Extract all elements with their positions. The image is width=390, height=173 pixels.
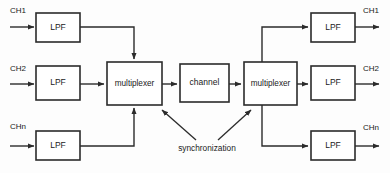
lpf-label-input-ch1: LPF xyxy=(50,22,66,32)
output-label-chn: CHn xyxy=(363,123,379,132)
input-label-ch2: CH2 xyxy=(10,64,27,73)
block-diagram-canvas: CH1 LPF CH2 LPF CHn LPF multiplexer xyxy=(0,0,390,173)
lpf-label-input-chn: LPF xyxy=(50,140,66,150)
sync-arrow-to-receive-mux xyxy=(218,110,251,140)
lpf-label-input-ch2: LPF xyxy=(50,77,66,87)
multiplexer-label-transmit: multiplexer xyxy=(115,79,155,88)
channel-label: channel xyxy=(190,77,220,87)
wire-lpf-ch1-to-mux xyxy=(80,27,134,59)
lpf-label-output-ch1: LPF xyxy=(325,22,341,32)
wire-mux-to-lpf-ch1 xyxy=(262,27,308,62)
wire-lpf-chn-to-mux xyxy=(80,108,134,146)
synchronization-annotation-group: synchronization xyxy=(162,110,251,153)
output-channel-ch1-group: LPF CH1 xyxy=(262,6,380,62)
input-channel-ch1-group: CH1 LPF xyxy=(10,6,134,59)
output-label-ch2: CH2 xyxy=(363,64,380,73)
diagram-svg: CH1 LPF CH2 LPF CHn LPF multiplexer xyxy=(0,0,390,173)
output-label-ch1: CH1 xyxy=(363,6,380,15)
output-channel-ch2-group: LPF CH2 xyxy=(297,64,380,100)
multiplexer-label-receive: multiplexer xyxy=(251,79,291,88)
input-channel-chn-group: CHn LPF xyxy=(10,108,134,160)
input-label-chn: CHn xyxy=(10,122,26,131)
synchronization-label: synchronization xyxy=(178,143,236,153)
wire-mux-to-lpf-chn xyxy=(262,105,308,146)
receive-multiplexer-group: multiplexer xyxy=(244,62,297,105)
input-label-ch1: CH1 xyxy=(10,6,27,15)
lpf-label-output-ch2: LPF xyxy=(325,77,341,87)
input-channel-ch2-group: CH2 LPF xyxy=(10,64,104,100)
channel-group: channel xyxy=(180,64,241,102)
lpf-label-output-chn: LPF xyxy=(325,140,341,150)
sync-arrow-to-transmit-mux xyxy=(162,110,196,140)
output-channel-chn-group: LPF CHn xyxy=(262,105,379,160)
transmit-multiplexer-group: multiplexer xyxy=(107,62,177,105)
